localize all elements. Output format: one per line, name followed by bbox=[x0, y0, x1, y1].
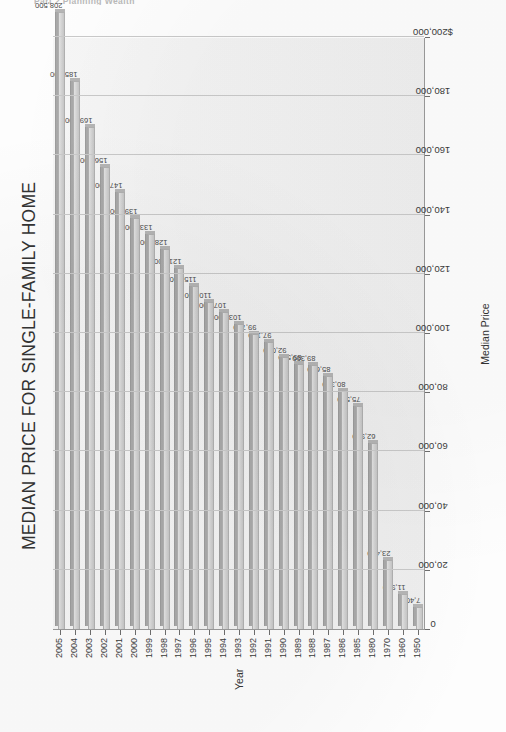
bar bbox=[219, 309, 229, 629]
bar-face bbox=[416, 607, 423, 629]
category-axis-tick-label: 1994 bbox=[218, 638, 228, 658]
bar-top-face bbox=[353, 403, 356, 626]
category-axis-tick bbox=[135, 630, 136, 635]
category-axis-tick-label: 1990 bbox=[278, 638, 288, 658]
bar-top-face bbox=[398, 591, 401, 626]
category-axis-tick-label: 2005 bbox=[54, 638, 64, 658]
bar bbox=[174, 265, 184, 629]
bar-top-face bbox=[189, 283, 192, 626]
category-axis-tick bbox=[418, 630, 419, 635]
category-axis-tick-label: 1970 bbox=[382, 638, 392, 658]
bar-end-cap bbox=[189, 283, 199, 286]
value-axis-tick-label: 180,000 bbox=[416, 86, 451, 97]
bar bbox=[368, 440, 378, 629]
bar-face bbox=[282, 357, 289, 629]
category-axis-tick bbox=[165, 630, 166, 635]
bar bbox=[279, 354, 289, 629]
category-axis-tick bbox=[60, 630, 61, 635]
bar-face bbox=[222, 312, 229, 629]
bar-top-face bbox=[55, 9, 58, 626]
value-axis-tick-label: 120,000 bbox=[416, 264, 451, 275]
bar-top-face bbox=[323, 373, 326, 626]
category-axis-tick bbox=[150, 630, 151, 635]
category-axis-tick bbox=[313, 630, 314, 635]
category-axis-tick-label: 1997 bbox=[173, 638, 183, 658]
gridline bbox=[53, 391, 424, 392]
bar-end-cap bbox=[413, 604, 423, 607]
bar-top-face bbox=[294, 361, 297, 626]
category-axis-tick-label: 2001 bbox=[114, 638, 124, 658]
bar bbox=[204, 299, 214, 629]
bar-end-cap bbox=[174, 265, 184, 268]
bar-face bbox=[326, 376, 333, 629]
value-axis-tick-label: 0 bbox=[430, 619, 435, 630]
value-axis-tick-label: $200,000 bbox=[413, 27, 453, 38]
bar-end-cap bbox=[145, 231, 155, 234]
bar-face bbox=[297, 364, 304, 629]
gridline bbox=[53, 214, 424, 215]
bar-face bbox=[118, 192, 125, 629]
category-axis-tick bbox=[254, 630, 255, 635]
category-axis-tick bbox=[269, 630, 270, 635]
value-axis-tick-label: 80,000 bbox=[418, 382, 447, 393]
bar-face bbox=[371, 443, 378, 629]
category-axis-title: Year bbox=[233, 669, 245, 690]
bar bbox=[130, 215, 140, 629]
chart: MEDIAN PRICE FOR SINGLE-FAMILY HOME 7,40… bbox=[13, 16, 493, 716]
category-axis-tick-label: 2000 bbox=[129, 638, 139, 658]
bar-top-face bbox=[145, 231, 148, 626]
category-axis-tick bbox=[343, 630, 344, 635]
bar-end-cap bbox=[294, 361, 304, 364]
bar-face bbox=[58, 12, 65, 629]
bar-top-face bbox=[219, 309, 222, 626]
chart-page: Part 2 Planning Wealth MEDIAN PRICE FOR … bbox=[0, 0, 506, 732]
category-axis-tick bbox=[284, 630, 285, 635]
category-axis-tick-label: 1991 bbox=[263, 638, 273, 658]
bar-top-face bbox=[130, 215, 133, 626]
category-axis-tick-label: 1998 bbox=[159, 638, 169, 658]
bar-face bbox=[103, 167, 110, 629]
bar bbox=[160, 246, 170, 629]
gridline bbox=[53, 510, 424, 511]
bar-top-face bbox=[174, 265, 177, 626]
bar-top-face bbox=[413, 604, 416, 626]
bar-face bbox=[163, 249, 170, 629]
bar-top-face bbox=[100, 164, 103, 626]
category-axis-tick bbox=[328, 630, 329, 635]
bar-face bbox=[148, 234, 155, 629]
bar-face bbox=[386, 560, 393, 629]
category-axis-tick-label: 1996 bbox=[188, 638, 198, 658]
bar-face bbox=[88, 127, 95, 629]
bar-top-face bbox=[338, 388, 341, 626]
gridline bbox=[53, 273, 424, 274]
gridline bbox=[53, 569, 424, 570]
category-axis-tick bbox=[105, 630, 106, 635]
rotated-chart-wrapper: MEDIAN PRICE FOR SINGLE-FAMILY HOME 7,40… bbox=[0, 0, 506, 732]
bar-top-face bbox=[308, 362, 311, 626]
bar bbox=[353, 403, 363, 629]
bar bbox=[323, 373, 333, 629]
gridline bbox=[53, 154, 424, 155]
bar bbox=[85, 124, 95, 629]
bar bbox=[308, 362, 318, 629]
gridline bbox=[53, 332, 424, 333]
bar-top-face bbox=[249, 331, 252, 626]
bar-top-face bbox=[115, 189, 118, 626]
bar-end-cap bbox=[85, 124, 95, 127]
value-axis-tick-label: 40,000 bbox=[418, 501, 447, 512]
category-axis-tick bbox=[209, 630, 210, 635]
category-axis-tick-label: 2002 bbox=[99, 638, 109, 658]
category-axis-tick-label: 1999 bbox=[144, 638, 154, 658]
value-axis-tick-label: 20,000 bbox=[418, 560, 447, 571]
chart-title: MEDIAN PRICE FOR SINGLE-FAMILY HOME bbox=[19, 16, 40, 716]
value-axis-tick-label: 100,000 bbox=[416, 323, 451, 334]
bar-face bbox=[177, 268, 184, 629]
plot-area: 7,40011,90023,40062,90075,50080,30085,60… bbox=[53, 38, 425, 630]
category-axis-tick-label: 1995 bbox=[203, 638, 213, 658]
bar-face bbox=[267, 342, 274, 629]
value-axis: Median Price $200,000180,000160,000140,0… bbox=[425, 38, 489, 630]
bar bbox=[100, 164, 110, 629]
bar-top-face bbox=[70, 78, 73, 626]
category-axis-tick-label: 1986 bbox=[337, 638, 347, 658]
category-axis: Year 19501960197019801985198619871988198… bbox=[53, 630, 425, 692]
